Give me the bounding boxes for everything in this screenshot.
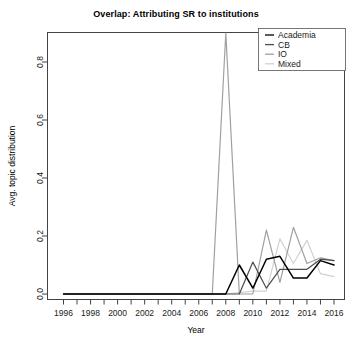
x-axis-tick-label: 1998 [81,308,100,318]
x-axis-tick-label: 2004 [162,308,181,318]
y-axis-tick-label: 0.8 [35,56,45,68]
legend-label-io: IO [278,49,287,59]
x-axis-title: Year [187,325,204,335]
x-axis-tick-label: 1996 [54,308,73,318]
series-line-cb [64,259,335,294]
x-axis-tick-label: 2002 [135,308,154,318]
y-axis-tick-label: 0.0 [35,288,45,300]
y-axis-title: Avg. topic distribution [7,125,17,206]
chart-legend: AcademiaCBIOMixed [259,29,346,71]
x-axis-tick-label: 2008 [216,308,235,318]
legend-label-academia: Academia [278,30,316,40]
x-axis-tick-label: 2000 [108,308,127,318]
y-axis-tick-label: 0.4 [35,172,45,184]
x-axis-tick-label: 2014 [297,308,316,318]
data-series-group [64,33,335,294]
plot-frame [48,33,345,300]
y-axis-tick-label: 0.2 [35,230,45,242]
x-axis-tick-label: 2016 [325,308,344,318]
x-axis-tick-label: 2012 [270,308,289,318]
series-line-academia [64,256,335,294]
y-axis-tick-label: 0.6 [35,114,45,126]
line-chart-plot: 0.00.20.40.60.8 199619982000200220042006… [0,0,352,345]
y-axis: 0.00.20.40.60.8 [35,56,48,300]
x-axis: 1996199820002002200420062008201020122014… [54,300,344,318]
chart-container: Overlap: Attributing SR to institutions … [0,0,352,345]
legend-label-cb: CB [278,40,290,50]
legend-label-mixed: Mixed [278,59,301,69]
x-axis-tick-label: 2006 [189,308,208,318]
x-axis-tick-label: 2010 [243,308,262,318]
series-line-mixed [64,239,335,294]
series-line-io [64,33,335,294]
